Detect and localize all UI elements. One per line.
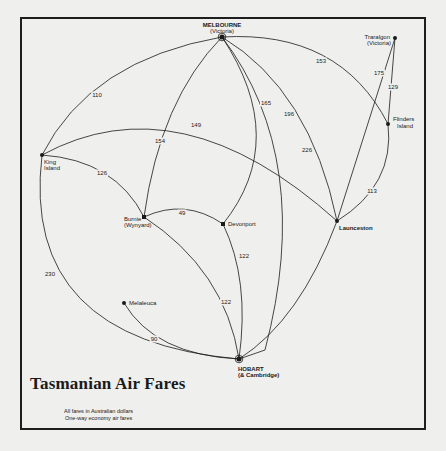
node-marker-melaleuca (122, 301, 126, 305)
fare-burnie-hobart: 122 (220, 299, 232, 306)
fare-melbourne-flinders: 153 (315, 58, 327, 65)
node-marker-launceston (335, 219, 339, 223)
fare-melbourne-launceston: 196 (283, 111, 295, 118)
fare-melbourne-hobart: 226 (301, 147, 313, 154)
fare-king-hobart: 230 (44, 271, 56, 278)
fare-melaleuca-hobart: 90 (150, 336, 159, 343)
route-king-launceston (42, 129, 337, 221)
node-marker-devonport (221, 222, 225, 226)
route-traralgon-flinders (388, 38, 395, 124)
node-label-melaleuca: Melaleuca (129, 300, 156, 307)
fare-flinders-launceston: 113 (366, 188, 378, 195)
route-melbourne-devonport (222, 37, 256, 224)
node-marker-flinders (386, 122, 390, 126)
fare-king-burnie: 126 (96, 170, 108, 177)
node-marker-king-island (40, 153, 44, 157)
subtitle-line-2: One-way economy air fares (65, 415, 132, 421)
node-sublabel-king-island: Island (44, 165, 60, 172)
fare-king-launceston: 149 (190, 122, 202, 129)
node-sublabel-melbourne: (Victoria) (210, 28, 234, 35)
route-melbourne-flinders (222, 37, 388, 124)
route-launceston-hobart (239, 221, 337, 359)
node-sublabel-burnie: (Wynyard) (124, 222, 152, 229)
node-sublabel-hobart: (& Cambridge) (238, 372, 279, 379)
fare-burnie-devonport: 49 (178, 210, 187, 217)
fare-melbourne-devonport: 165 (260, 100, 272, 107)
fare-devonport-hobart: 122 (238, 253, 250, 260)
route-melbourne-burnie (144, 37, 222, 217)
route-king-hobart (40, 155, 239, 359)
node-sublabel-traralgon: (Victoria) (367, 40, 391, 47)
fare-traralgon-flinders: 129 (387, 84, 399, 91)
node-label-launceston: Launceston (339, 225, 373, 232)
node-marker-hobart (237, 357, 242, 362)
route-melbourne-launceston (222, 37, 337, 221)
fare-melbourne-burnie: 154 (154, 138, 166, 145)
node-marker-melbourne (220, 35, 225, 40)
route-devonport-hobart (223, 224, 242, 359)
node-marker-traralgon (393, 36, 397, 40)
node-marker-burnie (142, 215, 146, 219)
diagram-title: Tasmanian Air Fares (30, 374, 186, 394)
node-sublabel-flinders: Island (397, 123, 413, 130)
subtitle-line-1: All fares in Australian dollars (64, 408, 133, 414)
fare-melbourne-king-island: 110 (91, 92, 103, 99)
node-label-devonport: Devonport (228, 221, 256, 228)
route-melbourne-king-island (42, 37, 222, 155)
fare-traralgon-launceston: 175 (373, 70, 385, 77)
route-melbourne-hobart (222, 37, 282, 359)
node-label-flinders: Flinders (393, 116, 414, 123)
